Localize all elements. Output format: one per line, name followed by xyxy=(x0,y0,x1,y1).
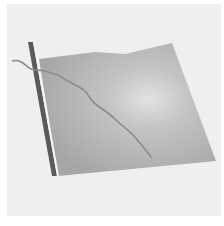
flag-illustration xyxy=(0,0,224,226)
flag xyxy=(39,43,216,176)
